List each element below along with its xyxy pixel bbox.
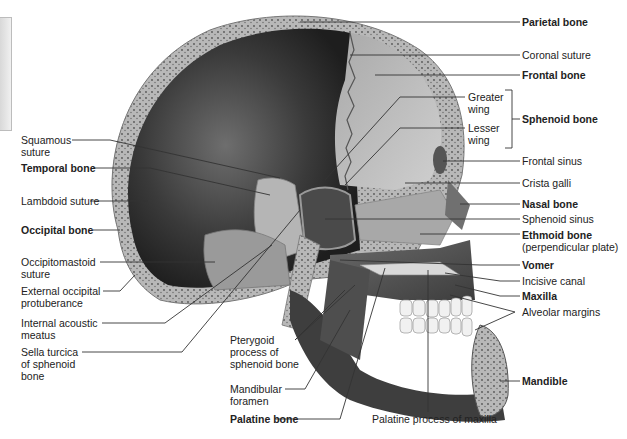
- label-ethmoid-bone-line2: (perpendicular plate): [522, 241, 618, 253]
- label-incisive-canal: Incisive canal: [522, 275, 585, 287]
- label-squamous-suture-line1: Squamous: [21, 134, 71, 146]
- label-occipitomastoid-suture: Occipitomastoid suture: [21, 256, 96, 280]
- label-palatine-bone: Palatine bone: [230, 413, 298, 425]
- label-sella-line1: Sella turcica: [21, 346, 78, 358]
- label-ethmoid-bone: Ethmoid bone (perpendicular plate): [522, 229, 618, 253]
- frontal-sinus-cavity: [433, 146, 447, 174]
- skull-sagittal-diagram: Parietal bone Coronal suture Frontal bon…: [0, 0, 627, 439]
- label-lesser-wing-line1: Lesser: [468, 122, 500, 134]
- label-pterygoid-process: Pterygoid process of sphenoid bone: [230, 334, 299, 370]
- label-ethmoid-bone-line1: Ethmoid bone: [522, 229, 618, 241]
- label-occipitomastoid-line1: Occipitomastoid: [21, 256, 96, 268]
- label-sphenoid-bone: Sphenoid bone: [522, 113, 598, 125]
- label-sella-line3: bone: [21, 370, 78, 382]
- label-nasal-bone: Nasal bone: [522, 198, 578, 210]
- label-squamous-suture-line2: suture: [21, 146, 71, 158]
- teeth: [400, 296, 472, 336]
- label-lesser-wing: Lesser wing: [468, 122, 500, 146]
- label-crista-galli: Crista galli: [522, 177, 571, 189]
- label-pterygoid-line1: Pterygoid: [230, 334, 299, 346]
- label-coronal-suture: Coronal suture: [522, 49, 591, 61]
- label-mandibular-foramen: Mandibular foramen: [230, 383, 282, 407]
- label-parietal-bone: Parietal bone: [522, 16, 588, 28]
- label-greater-wing-line1: Greater: [468, 91, 504, 103]
- label-internal-acoustic-meatus: Internal acoustic meatus: [21, 317, 97, 341]
- label-frontal-sinus: Frontal sinus: [522, 155, 582, 167]
- label-sphenoid-sinus: Sphenoid sinus: [522, 213, 594, 225]
- mandible-section: [472, 325, 509, 417]
- label-mandibular-foramen-line1: Mandibular: [230, 383, 282, 395]
- label-maxilla: Maxilla: [522, 290, 557, 302]
- label-eop-line2: protuberance: [21, 297, 100, 309]
- label-occipital-bone: Occipital bone: [21, 224, 93, 236]
- label-eop-line1: External occipital: [21, 285, 100, 297]
- label-external-occipital-protuberance: External occipital protuberance: [21, 285, 100, 309]
- label-sella-line2: of sphenoid: [21, 358, 78, 370]
- label-frontal-bone: Frontal bone: [522, 69, 586, 81]
- label-lesser-wing-line2: wing: [468, 134, 500, 146]
- label-alveolar-margins: Alveolar margins: [522, 306, 600, 318]
- label-lambdoid-suture: Lambdoid suture: [21, 195, 99, 207]
- label-greater-wing-line2: wing: [468, 103, 504, 115]
- label-vomer: Vomer: [522, 259, 554, 271]
- label-temporal-bone: Temporal bone: [21, 162, 95, 174]
- label-greater-wing: Greater wing: [468, 91, 504, 115]
- label-sella-turcica: Sella turcica of sphenoid bone: [21, 346, 78, 382]
- label-iam-line1: Internal acoustic: [21, 317, 97, 329]
- label-palatine-process-of-maxilla: Palatine process of maxilla: [372, 413, 497, 425]
- label-pterygoid-line3: sphenoid bone: [230, 358, 299, 370]
- label-pterygoid-line2: process of: [230, 346, 299, 358]
- label-mandibular-foramen-line2: foramen: [230, 395, 282, 407]
- label-squamous-suture: Squamous suture: [21, 134, 71, 158]
- label-iam-line2: meatus: [21, 329, 97, 341]
- label-mandible: Mandible: [522, 375, 568, 387]
- label-occipitomastoid-line2: suture: [21, 268, 96, 280]
